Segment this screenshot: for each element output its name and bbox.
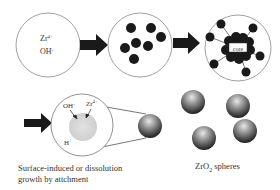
growth-caption-line1: Surface-induced or dissolution <box>18 163 122 174</box>
oh-ion-label: OH- <box>40 47 54 56</box>
spheres-caption: ZrO2 spheres <box>195 161 240 176</box>
zro2-sphere <box>233 119 257 143</box>
nucleus <box>131 38 141 48</box>
arrow-right-icon <box>24 113 52 133</box>
nucleus <box>146 23 156 33</box>
solution-circle <box>16 13 80 77</box>
stage1-ion-solution: Zr4+ OH- <box>16 13 80 77</box>
stage3-core-aggregation: core <box>205 15 271 81</box>
growth-caption: Surface-induced or dissolution growth by… <box>18 163 122 185</box>
zro2-sphere <box>192 126 216 150</box>
nucleus <box>143 41 153 51</box>
zro2-sphere <box>138 114 162 138</box>
stage4-surface-growth: OH- Zr4+ H+ <box>51 94 162 156</box>
zro2-sphere <box>226 94 250 118</box>
arrow-right-icon <box>173 32 200 54</box>
zro2-sphere <box>181 90 205 114</box>
nucleus <box>120 43 130 53</box>
nucleus <box>129 54 139 64</box>
nucleus <box>126 23 136 33</box>
arrow-right-icon <box>80 34 108 56</box>
growth-caption-line2: growth by attchment <box>18 174 122 185</box>
core-label: core <box>233 46 244 52</box>
nucleus <box>156 32 166 42</box>
growing-seed <box>69 113 97 141</box>
stage2-nucleation <box>108 13 172 77</box>
final-zro2-spheres <box>181 90 257 150</box>
